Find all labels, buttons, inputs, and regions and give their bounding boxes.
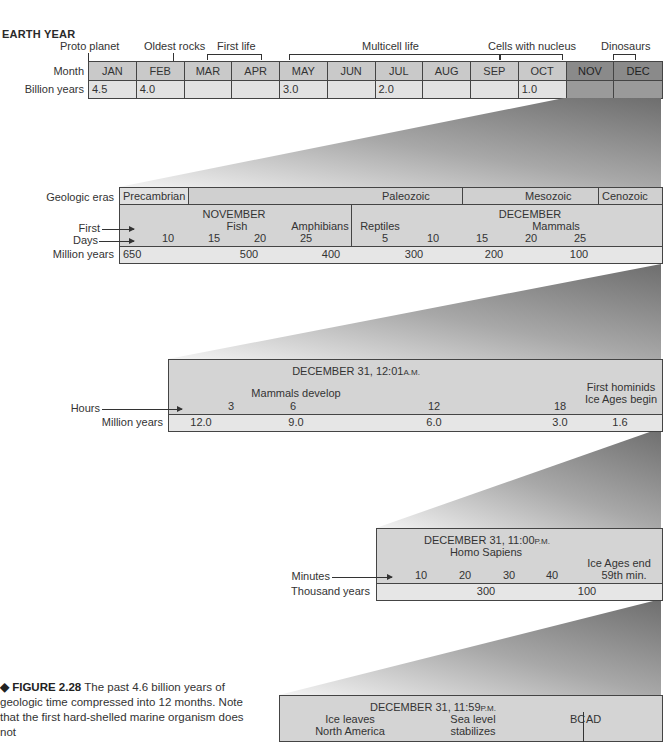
nov-day-10: 10 <box>162 232 174 244</box>
dec-day-15: 15 <box>476 232 488 244</box>
first-arrow-icon <box>102 229 134 230</box>
hour-6: 6 <box>290 400 296 412</box>
nov-day-15: 15 <box>208 232 220 244</box>
minute-59th: 59th min. <box>601 569 646 581</box>
dec-day-20: 20 <box>525 232 537 244</box>
november-label: NOVEMBER <box>203 208 266 220</box>
minute-20: 20 <box>459 569 471 581</box>
minute-40: 40 <box>546 569 558 581</box>
title-text: DECEMBER 31, 11:00 <box>424 534 534 546</box>
row-label-million-years: Million years <box>2 248 114 260</box>
era-cenozoic: Cenozoic <box>602 190 648 202</box>
event-ice-ages-begin: Ice Ages begin <box>585 393 657 405</box>
event-amphibians: Amphibians <box>291 220 348 232</box>
month-divider <box>351 205 352 247</box>
title-suffix: P.M. <box>481 704 496 713</box>
row-label-thousand-years: Thousand years <box>240 585 370 597</box>
figure-caption: ◆ FIGURE 2.28 The past 4.6 billion years… <box>0 680 260 740</box>
era-divider <box>462 188 463 205</box>
dec-day-5: 5 <box>382 232 388 244</box>
my-6-0: 6.0 <box>426 416 441 428</box>
title-text: DECEMBER 31, 11:59 <box>370 701 480 713</box>
event-mammals-develop: Mammals develop <box>251 387 340 399</box>
nov-day-20: 20 <box>254 232 266 244</box>
dec31-1159pm-panel: DECEMBER 31, 11:59P.M. Ice leaves North … <box>279 695 663 742</box>
event-homo-sapiens: Homo Sapiens <box>450 546 522 558</box>
my-500: 500 <box>240 248 258 260</box>
event-stabilizes: stabilizes <box>450 725 495 737</box>
dec31-11pm-title: DECEMBER 31, 11:00P.M. <box>424 534 550 546</box>
row-label-first: First <box>60 222 100 234</box>
caption-label: ◆ FIGURE 2.28 <box>0 681 81 693</box>
my-300: 300 <box>405 248 423 260</box>
dec31-midnight-panel: DECEMBER 31, 12:01A.M. Mammals develop F… <box>168 359 663 416</box>
my-100: 100 <box>570 248 588 260</box>
minute-10: 10 <box>415 569 427 581</box>
my-650: 650 <box>123 248 141 260</box>
hour-12: 12 <box>428 400 440 412</box>
title-suffix: P.M. <box>535 537 550 546</box>
dec-day-10: 10 <box>427 232 439 244</box>
bc-ad-divider <box>583 712 584 742</box>
dec-day-25: 25 <box>574 232 586 244</box>
dec31-midnight-title: DECEMBER 31, 12:01A.M. <box>292 365 420 377</box>
dec31-1159pm-title: DECEMBER 31, 11:59P.M. <box>370 701 496 713</box>
my-200: 200 <box>485 248 503 260</box>
event-first-hominids: First hominids <box>587 381 655 393</box>
event-sea-level: Sea level <box>450 713 495 725</box>
event-ice-leaves: Ice leaves <box>325 713 375 725</box>
midnight-million-years-band: 12.0 9.0 6.0 3.0 1.6 <box>168 414 663 432</box>
row-label-geologic-eras: Geologic eras <box>20 191 114 203</box>
ky-300: 300 <box>477 585 495 597</box>
event-ice-ages-end: Ice Ages end <box>587 557 651 569</box>
event-mammals: Mammals <box>532 220 580 232</box>
dec31-11pm-panel: DECEMBER 31, 11:00P.M. Homo Sapiens Ice … <box>376 528 663 585</box>
ky-100: 100 <box>578 585 596 597</box>
ad-label: AD <box>586 713 601 725</box>
title-text: DECEMBER 31, 12:01 <box>292 365 403 377</box>
row-label-hours: Hours <box>60 402 100 414</box>
era-divider <box>598 188 599 205</box>
hours-arrow-icon <box>102 409 182 410</box>
era-paleozoic: Paleozoic <box>382 190 430 202</box>
million-years-band: 650 500 400 300 200 100 <box>119 246 663 264</box>
days-arrow-icon <box>99 241 134 242</box>
my-9-0: 9.0 <box>288 416 303 428</box>
my-3-0: 3.0 <box>552 416 567 428</box>
era-precambrian: Precambrian <box>120 188 189 205</box>
hour-3: 3 <box>228 400 234 412</box>
minutes-arrow-icon <box>332 577 392 578</box>
december-label: DECEMBER <box>499 208 561 220</box>
title-suffix: A.M. <box>403 368 419 377</box>
my-1-6: 1.6 <box>612 416 627 428</box>
event-fish: Fish <box>227 220 248 232</box>
row-label-days: Days <box>50 234 98 246</box>
row-label-million-years-2: Million years <box>20 416 163 428</box>
event-reptiles: Reptiles <box>360 220 400 232</box>
era-mesozoic: Mesozoic <box>525 190 571 202</box>
minute-30: 30 <box>503 569 515 581</box>
my-12-0: 12.0 <box>190 416 211 428</box>
row-label-minutes: Minutes <box>250 570 330 582</box>
thousand-years-band: 300 100 <box>376 583 663 601</box>
nov-dec-panel: NOVEMBER DECEMBER Fish Amphibians Reptil… <box>119 204 663 248</box>
hour-18: 18 <box>554 400 566 412</box>
my-400: 400 <box>322 248 340 260</box>
event-north-america: North America <box>315 725 385 737</box>
nov-day-25: 25 <box>300 232 312 244</box>
